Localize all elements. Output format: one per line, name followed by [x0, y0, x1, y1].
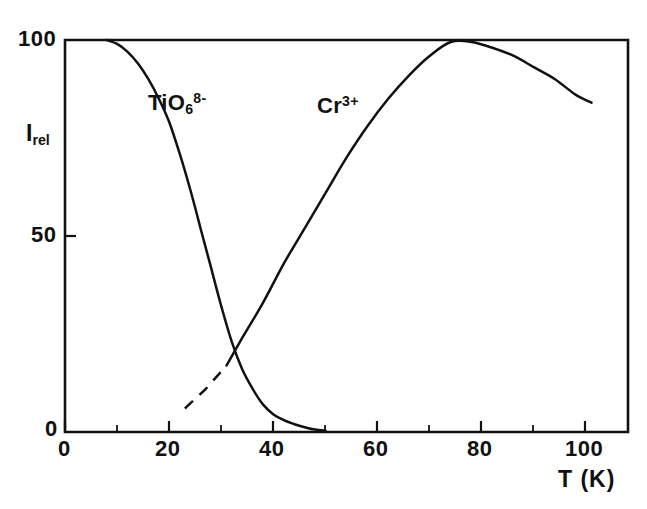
curve-label-cr3: Cr3+: [317, 95, 359, 117]
curve-cr3-dashed: [185, 365, 227, 408]
y-tick-label-0: 0: [45, 418, 58, 440]
x-tick-label-80: 80: [467, 438, 492, 460]
chart-plot-area: [0, 0, 647, 509]
x-tick-label-0: 0: [58, 438, 71, 460]
y-axis-title: Irel: [26, 122, 50, 145]
figure-root: 100 50 0 0 20 40 60 80 100 Irel T (K) Ti…: [0, 0, 647, 509]
x-axis-title: T (K): [558, 468, 615, 491]
curve-cr3: [227, 41, 592, 366]
y-axis-title-sub: rel: [32, 132, 49, 148]
curve-tio6: [107, 40, 326, 431]
curve-label-tio6: TiO68-: [148, 92, 206, 114]
y-tick-label-50: 50: [31, 224, 56, 246]
x-tick-label-40: 40: [259, 438, 284, 460]
x-tick-label-60: 60: [363, 438, 388, 460]
curve-label-tio6-base: TiO: [148, 90, 185, 115]
curve-label-tio6-sup: 8-: [193, 90, 206, 106]
y-tick-label-100: 100: [18, 28, 56, 50]
x-tick-label-20: 20: [155, 438, 180, 460]
curve-label-cr3-base: Cr: [317, 93, 342, 118]
x-tick-label-100: 100: [565, 438, 603, 460]
curve-label-cr3-sup: 3+: [342, 93, 359, 109]
